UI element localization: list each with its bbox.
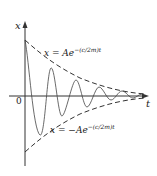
x-axis-arrow-icon: [23, 21, 28, 28]
horizontal-axis-label: t: [146, 98, 151, 109]
lower-envelope-exponent: −(c/2m)t: [88, 123, 116, 130]
lower-envelope-lhs: x = −Ae: [50, 125, 88, 135]
upper-envelope-equation: x = Ae−(c/2m)t: [44, 46, 102, 58]
vertical-axis-label: x: [15, 20, 21, 31]
upper-envelope-lhs: x = Ae: [44, 48, 74, 58]
damped-oscillation-diagram: x t 0 x = Ae−(c/2m)t x = −Ae−(c/2m)t: [0, 0, 157, 176]
lower-envelope-equation: x = −Ae−(c/2m)t: [50, 123, 115, 135]
upper-envelope-exponent: −(c/2m)t: [74, 46, 102, 53]
origin-label: 0: [16, 96, 22, 106]
oscillation-curve: [25, 40, 142, 135]
